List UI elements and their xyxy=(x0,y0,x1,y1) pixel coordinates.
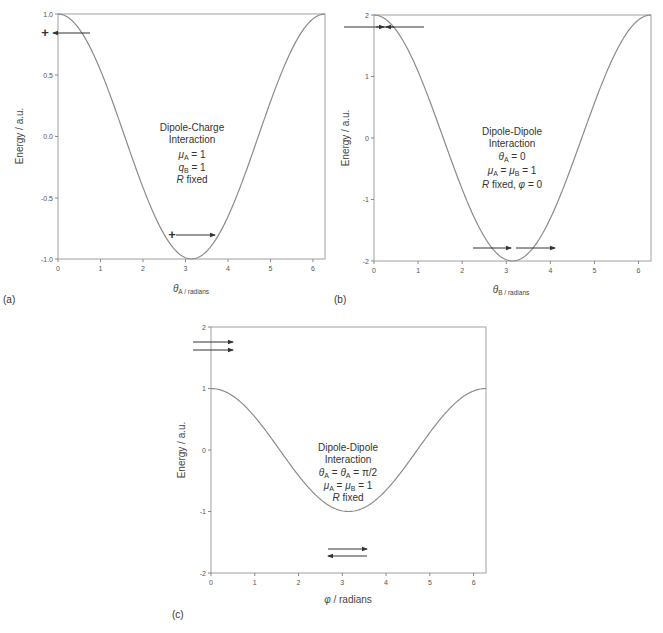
svg-text:Interaction: Interaction xyxy=(489,138,536,149)
svg-text:θA = 0: θA = 0 xyxy=(498,151,526,163)
x-tick-label: 0 xyxy=(372,267,376,274)
svg-text:R fixed: R fixed xyxy=(176,174,207,185)
svg-text:qB = 1: qB = 1 xyxy=(178,162,206,174)
x-tick-label: 1 xyxy=(253,579,257,586)
x-tick-label: 5 xyxy=(592,267,596,274)
x-tick-label: 1 xyxy=(99,265,103,272)
y-tick-label: 1 xyxy=(202,385,206,392)
svg-text:μA = μB = 1: μA = μB = 1 xyxy=(487,165,537,177)
x-axis-c: 0123456 xyxy=(209,573,476,586)
y-tick-label: 1 xyxy=(365,73,369,80)
x-tick-label: 4 xyxy=(384,579,388,586)
annotation-a: Dipole-Charge Interaction μA = 1 qB = 1 … xyxy=(160,122,225,185)
svg-text:μA = 1: μA = 1 xyxy=(177,149,206,161)
x-tick-label: 1 xyxy=(416,267,420,274)
y-tick-label: 2 xyxy=(202,324,206,331)
svg-text:Dipole-Charge: Dipole-Charge xyxy=(160,122,225,133)
panel-tag-b: (b) xyxy=(334,294,346,305)
svg-text:Dipole-Dipole: Dipole-Dipole xyxy=(318,442,378,453)
panel-b: 2 1 0 -1 -2 Energy / a.u. 0123456 θB / r… xyxy=(334,12,651,306)
x-tick-label: 0 xyxy=(209,579,213,586)
y-axis-c: 2 1 0 -1 -2 xyxy=(200,324,211,577)
y-axis-title-a: Energy / a.u. xyxy=(14,108,25,165)
dipole-arrows-bottom-c xyxy=(328,549,367,556)
svg-text:Dipole-Dipole: Dipole-Dipole xyxy=(482,126,542,137)
positive-charge-icon: + xyxy=(41,25,49,40)
y-tick-label: 2 xyxy=(365,12,369,19)
svg-text:R fixed: R fixed xyxy=(332,492,363,503)
y-tick-label: -0.5 xyxy=(41,195,53,202)
x-axis-title-b: θB / radians xyxy=(493,284,530,296)
x-tick-label: 2 xyxy=(460,267,464,274)
y-tick-label: -1.0 xyxy=(41,256,53,263)
dipole-arrow-top-a: + xyxy=(41,25,90,40)
annotation-b: Dipole-Dipole Interaction θA = 0 μA = μB… xyxy=(482,126,543,190)
svg-text:θA = θA = π/2: θA = θA = π/2 xyxy=(319,467,378,479)
panel-a: 1.0 0.5 0.0 -0.5 -1.0 Energy / a.u. 0123… xyxy=(3,11,325,306)
y-tick-label: 0.5 xyxy=(43,72,53,79)
x-axis-b: 0123456 xyxy=(372,261,641,274)
x-tick-label: 5 xyxy=(269,265,273,272)
x-axis-title-c: φ / radians xyxy=(324,594,372,605)
figure-canvas: 1.0 0.5 0.0 -0.5 -1.0 Energy / a.u. 0123… xyxy=(0,0,663,633)
x-tick-label: 3 xyxy=(340,579,344,586)
svg-text:R fixed, φ = 0: R fixed, φ = 0 xyxy=(482,179,543,190)
y-tick-label: -1 xyxy=(200,508,206,515)
x-tick-label: 5 xyxy=(428,579,432,586)
x-tick-label: 4 xyxy=(226,265,230,272)
y-tick-label: 0 xyxy=(365,135,369,142)
panel-tag-c: (c) xyxy=(172,609,184,620)
svg-text:Interaction: Interaction xyxy=(325,454,372,465)
y-tick-label: -2 xyxy=(200,570,206,577)
panel-tag-a: (a) xyxy=(3,294,15,305)
svg-text:Interaction: Interaction xyxy=(169,134,216,145)
x-tick-label: 4 xyxy=(548,267,552,274)
dipole-arrow-bottom-a: + xyxy=(168,227,215,242)
x-axis-title-a: θA / radians xyxy=(173,283,210,295)
y-tick-label: 0.0 xyxy=(43,133,53,140)
y-tick-label: -2 xyxy=(363,258,369,265)
y-axis-b: 2 1 0 -1 -2 xyxy=(363,12,374,265)
x-axis-a: 0123456 xyxy=(56,259,315,272)
y-tick-label: 1.0 xyxy=(43,11,53,18)
x-tick-label: 2 xyxy=(297,579,301,586)
y-tick-label: 0 xyxy=(202,447,206,454)
x-tick-label: 3 xyxy=(184,265,188,272)
x-tick-label: 0 xyxy=(56,265,60,272)
x-tick-label: 6 xyxy=(472,579,476,586)
y-tick-label: -1 xyxy=(363,196,369,203)
positive-charge-icon: + xyxy=(168,227,176,242)
x-tick-label: 6 xyxy=(637,267,641,274)
x-tick-label: 6 xyxy=(311,265,315,272)
x-tick-label: 3 xyxy=(504,267,508,274)
y-axis-title-c: Energy / a.u. xyxy=(176,422,187,479)
y-axis-title-b: Energy / a.u. xyxy=(340,110,351,167)
dipole-arrows-top-c xyxy=(193,342,233,350)
x-tick-label: 2 xyxy=(141,265,145,272)
svg-text:μA = μB = 1: μA = μB = 1 xyxy=(323,480,373,492)
panel-c: 2 1 0 -1 -2 Energy / a.u. 0123456 φ / ra… xyxy=(172,324,486,621)
annotation-c: Dipole-Dipole Interaction θA = θA = π/2 … xyxy=(318,442,378,503)
y-axis-a: 1.0 0.5 0.0 -0.5 -1.0 xyxy=(41,11,58,263)
